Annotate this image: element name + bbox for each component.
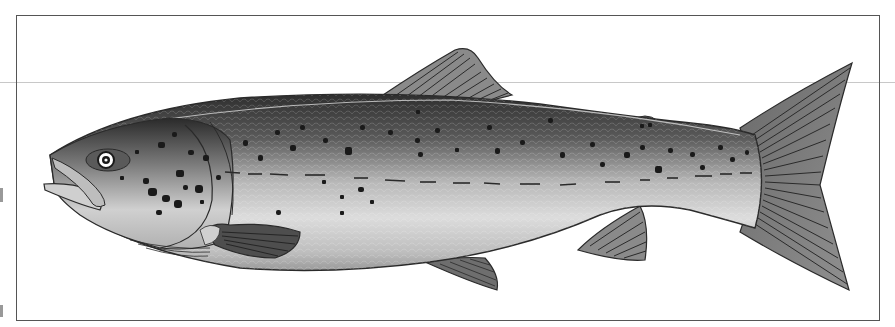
salmon-illustration — [0, 0, 895, 327]
eye — [86, 149, 130, 171]
pelvic-fin — [425, 258, 498, 291]
